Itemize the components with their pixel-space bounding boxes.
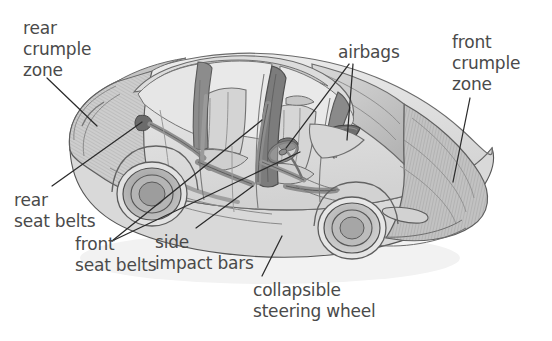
callout-airbags: airbags xyxy=(338,42,400,63)
safety-diagram-figure: rear crumple zone airbags front crumple … xyxy=(0,0,552,341)
callout-side-impact-bars: side impact bars xyxy=(155,232,254,274)
callout-front-crumple-zone: front crumple zone xyxy=(452,32,520,95)
callout-front-seat-belts: front seat belts xyxy=(75,234,156,276)
callout-rear-seat-belts: rear seat belts xyxy=(14,190,95,232)
callout-collapsible-steering-wheel: collapsible steering wheel xyxy=(253,280,376,322)
callout-rear-crumple-zone: rear crumple zone xyxy=(23,18,91,81)
